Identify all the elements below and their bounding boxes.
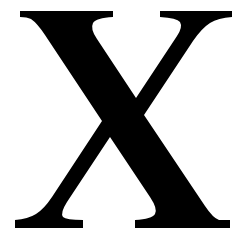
letter-x-glyph: X [0, 0, 243, 240]
glyph-canvas: X X [0, 0, 243, 240]
